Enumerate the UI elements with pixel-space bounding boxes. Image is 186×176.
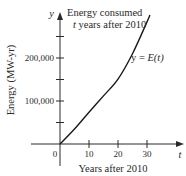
y-tick-label: 200,000 <box>25 53 55 63</box>
energy-curve <box>60 15 150 144</box>
x-axis-arrow-icon <box>176 141 184 147</box>
chart-subtitle: t years after 2010 <box>73 19 146 30</box>
y-axis <box>57 12 63 166</box>
y-axis-var-label: y <box>48 8 54 19</box>
x-tick-label: 10 <box>85 149 95 159</box>
origin-label: 0 <box>53 149 58 159</box>
x-ticks: 102030 <box>85 140 153 159</box>
y-ticks: 100,000200,000 <box>25 37 64 123</box>
x-axis-var-label: t <box>179 149 183 160</box>
curve-label: y = E(t) <box>131 52 164 64</box>
energy-chart: 102030 100,000200,000 0 y t Energy consu… <box>0 0 186 176</box>
x-axis-title: Years after 2010 <box>79 163 148 174</box>
y-tick-label: 100,000 <box>25 96 55 106</box>
x-tick-label: 20 <box>114 149 124 159</box>
x-axis <box>31 141 184 147</box>
x-tick-label: 30 <box>143 149 153 159</box>
y-axis-title: Energy (MW-yr) <box>5 44 17 115</box>
chart-title: Energy consumed <box>67 7 143 18</box>
y-axis-arrow-icon <box>57 12 63 20</box>
